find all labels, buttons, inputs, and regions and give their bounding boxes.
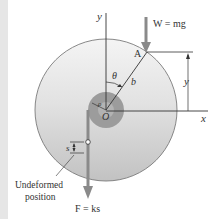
- spring-force-arrowhead: [83, 186, 93, 199]
- undeformed-label-line2: position: [25, 192, 56, 202]
- point-a-label: A: [134, 48, 142, 59]
- hub-radius-label: ρ: [97, 100, 102, 108]
- cable-attachment-point: [86, 140, 91, 145]
- origin-label: O: [102, 111, 109, 122]
- pulley-diagram: y x W = mg A θ b ρ O y s Undeformed posi…: [0, 0, 223, 219]
- weight-label: W = mg: [153, 18, 186, 29]
- undeformed-label-line1: Undeformed: [15, 180, 63, 190]
- height-label: y: [183, 75, 189, 87]
- x-axis-label: x: [200, 112, 206, 124]
- theta-label: θ: [112, 70, 117, 81]
- spring-stretch-label: s: [66, 143, 70, 153]
- y-axis-label: y: [96, 10, 102, 22]
- height-arrowhead: [186, 53, 190, 59]
- spring-force-label: F = ks: [75, 203, 100, 214]
- arm-length-label: b: [131, 76, 136, 87]
